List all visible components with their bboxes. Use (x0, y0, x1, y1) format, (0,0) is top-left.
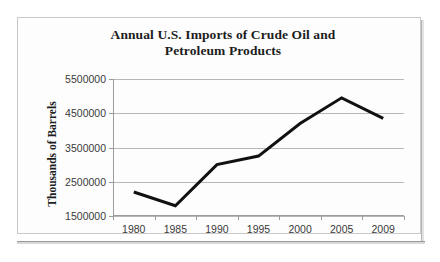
x-axis-tick-label: 1980 (122, 223, 145, 235)
x-axis-tick-mark (321, 216, 322, 220)
chart-title-line-1: Annual U.S. Imports of Crude Oil and (111, 27, 336, 42)
x-axis-tick-mark (196, 216, 197, 220)
x-axis-tick-mark (404, 216, 405, 220)
x-axis-tick-mark (113, 216, 114, 220)
y-axis-title: Thousands of Barrels (46, 74, 58, 234)
x-axis-tick-mark (238, 216, 239, 220)
y-axis-tick-label: 4500000 (65, 107, 106, 119)
x-axis-tick-label: 2000 (288, 223, 311, 235)
figure-shadow-bottom (17, 241, 425, 244)
data-series-line (113, 79, 404, 216)
x-axis-tick-label: 2005 (330, 223, 353, 235)
chart-title: Annual U.S. Imports of Crude Oil and Pet… (58, 27, 388, 59)
chart-figure-frame: Annual U.S. Imports of Crude Oil and Pet… (17, 17, 421, 234)
x-axis-tick-label: 1990 (205, 223, 228, 235)
chart-title-line-2: Petroleum Products (165, 43, 281, 58)
gridline (113, 216, 404, 217)
x-axis-tick-label: 2009 (372, 223, 395, 235)
y-axis-tick-label: 5500000 (65, 73, 106, 85)
plot-area: 15000002500000350000045000005500000 1980… (113, 79, 404, 216)
x-axis-tick-mark (279, 216, 280, 220)
x-axis-tick-label: 1985 (164, 223, 187, 235)
x-axis-tick-mark (362, 216, 363, 220)
x-axis-tick-mark (155, 216, 156, 220)
y-axis-tick-label: 1500000 (65, 210, 106, 222)
figure-shadow-right (421, 20, 424, 242)
x-axis-tick-label: 1995 (247, 223, 270, 235)
y-axis-tick-label: 2500000 (65, 176, 106, 188)
y-axis-tick-label: 3500000 (65, 142, 106, 154)
